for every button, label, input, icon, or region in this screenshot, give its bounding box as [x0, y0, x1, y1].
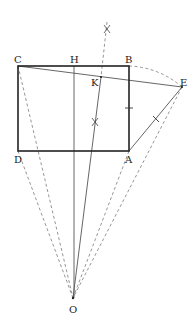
geometry-diagram: C H B K E D A O [0, 0, 196, 323]
point-k [100, 76, 102, 78]
dashed-line-d-o [18, 151, 73, 298]
label-k: K [91, 77, 99, 88]
point-dots [72, 76, 183, 299]
label-b: B [125, 54, 132, 65]
label-a: A [124, 154, 133, 165]
rectangle-abcd [18, 66, 129, 151]
label-d: D [14, 154, 22, 165]
line-k-o [73, 77, 101, 298]
label-c: C [14, 54, 22, 65]
dashed-line-a-o [73, 151, 129, 298]
label-e: E [180, 77, 187, 88]
label-o: O [69, 304, 77, 315]
solid-construction-lines [18, 66, 182, 298]
equal-length-marks [125, 108, 159, 122]
dashed-line-e-o [73, 87, 182, 298]
point-o [72, 297, 74, 299]
dashed-line-c-o [18, 66, 73, 298]
dashed-projection-lines [18, 22, 182, 298]
label-h: H [70, 54, 79, 65]
